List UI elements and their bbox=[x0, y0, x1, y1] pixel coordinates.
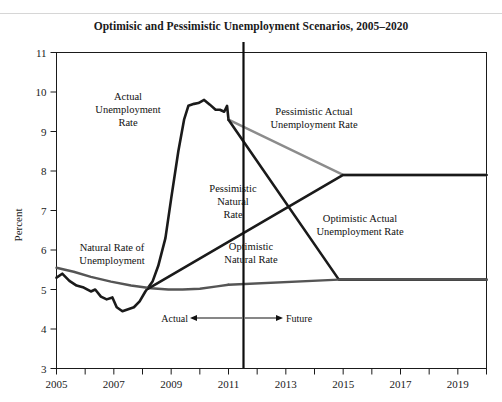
optimistic-actual-label-line2: Unemployment Rate bbox=[316, 226, 404, 237]
actual-unemployment-rate-label-line3: Rate bbox=[118, 117, 138, 128]
y-tick-label: 5 bbox=[41, 284, 47, 296]
x-tick-label: 2015 bbox=[332, 378, 355, 390]
natural-rate-label-line2: Unemployment bbox=[79, 255, 144, 266]
y-tick-label: 3 bbox=[41, 363, 47, 375]
x-axis: 20052007200920112013201520172019 bbox=[46, 369, 487, 390]
future-divider-label: Future bbox=[286, 313, 313, 324]
optimistic-natural-label-line1: Optimistic bbox=[229, 241, 274, 252]
y-axis: 34567891011 bbox=[36, 47, 57, 375]
y-tick-label: 8 bbox=[41, 165, 47, 177]
actual-divider-label: Actual bbox=[161, 313, 188, 324]
y-tick-label: 7 bbox=[41, 205, 47, 217]
pessimistic-actual-label-line1: Pessimistic Actual bbox=[275, 106, 352, 117]
optimistic-natural-label-line2: Natural Rate bbox=[224, 254, 278, 265]
y-tick-label: 4 bbox=[41, 323, 47, 335]
chart-plot-area: 34567891011 2005200720092011201320152017… bbox=[0, 0, 502, 402]
actual-unemployment-rate-label-line2: Unemployment bbox=[95, 104, 160, 115]
chart-figure: Optimisic and Pessimistic Unemployment S… bbox=[0, 0, 502, 402]
x-tick-label: 2009 bbox=[160, 378, 183, 390]
y-tick-label: 11 bbox=[36, 47, 47, 59]
x-tick-label: 2017 bbox=[390, 378, 413, 390]
natural-rate-label-line1: Natural Rate of bbox=[80, 242, 145, 253]
y-axis-title: Percent bbox=[12, 209, 24, 242]
actual-unemployment-rate-label-line1: Actual bbox=[114, 91, 142, 102]
x-tick-label: 2007 bbox=[103, 378, 126, 390]
y-tick-label: 10 bbox=[36, 86, 48, 98]
y-tick-label: 6 bbox=[41, 244, 47, 256]
y-tick-label: 9 bbox=[41, 126, 47, 138]
pessimistic-natural-label-line1: Pessimistic bbox=[209, 183, 257, 194]
pessimistic-actual-label-line2: Unemployment Rate bbox=[270, 119, 358, 130]
x-tick-label: 2011 bbox=[218, 378, 240, 390]
x-tick-label: 2005 bbox=[46, 378, 69, 390]
x-tick-label: 2013 bbox=[275, 378, 298, 390]
optimistic-actual-label-line1: Optimistic Actual bbox=[323, 213, 397, 224]
pessimistic-natural-label-line3: Rate bbox=[223, 209, 243, 220]
x-tick-label: 2019 bbox=[447, 378, 470, 390]
pessimistic-natural-label-line2: Natural bbox=[217, 196, 249, 207]
